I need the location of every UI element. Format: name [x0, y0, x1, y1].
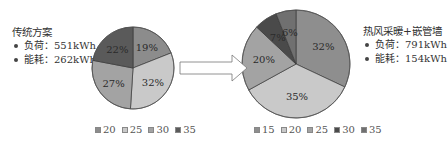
legend-label: 20 [103, 124, 116, 135]
legend-item-25: 25 [122, 124, 143, 135]
legend-item-15: 15 [254, 124, 275, 135]
legend-traditional: 20253035 [95, 124, 196, 135]
legend-label: 30 [342, 124, 355, 135]
legend-swatch [175, 127, 181, 133]
legend-item-30: 30 [334, 124, 355, 135]
right-arrow-icon [180, 55, 247, 81]
legend-swatch [281, 127, 287, 133]
legend-swatch [307, 127, 313, 133]
legend-item-35: 35 [175, 124, 196, 135]
legend-item-25: 25 [307, 124, 328, 135]
pie-label: 22% [106, 44, 128, 55]
pie-label: 32% [312, 41, 334, 52]
pie-label: 32% [142, 77, 164, 88]
legend-label: 25 [130, 124, 143, 135]
legend-swatch [254, 127, 260, 133]
legend-swatch [95, 127, 101, 133]
legend-swatch [148, 127, 154, 133]
legend-label: 15 [262, 124, 275, 135]
legend-label: 35 [369, 124, 382, 135]
legend-label: 35 [183, 124, 196, 135]
legend-hot-air: 1520253035 [254, 124, 382, 135]
pie-chart-hot-air: 32%35%20%7%6% [242, 10, 350, 118]
legend-label: 20 [289, 124, 302, 135]
legend-item-20: 20 [281, 124, 302, 135]
pie-label: 20% [253, 54, 275, 65]
legend-item-35: 35 [361, 124, 382, 135]
legend-swatch [361, 127, 367, 133]
legend-label: 30 [156, 124, 169, 135]
legend-swatch [122, 127, 128, 133]
pie-label: 19% [136, 42, 158, 53]
pie-label: 35% [286, 91, 308, 102]
pie-label: 6% [282, 27, 298, 38]
pie-label: 27% [102, 78, 124, 89]
legend-label: 25 [315, 124, 328, 135]
legend-item-30: 30 [148, 124, 169, 135]
legend-item-20: 20 [95, 124, 116, 135]
pie-chart-traditional: 19%32%27%22% [92, 27, 174, 109]
legend-swatch [334, 127, 340, 133]
